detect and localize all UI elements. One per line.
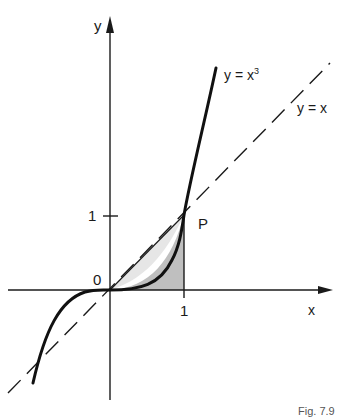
cubic-curve-label: y = x3 bbox=[224, 67, 259, 82]
x-axis-arrow-icon bbox=[318, 286, 333, 294]
figure-caption: Fig. 7.9 bbox=[298, 405, 335, 417]
cubic-exponent: 3 bbox=[254, 66, 259, 76]
origin-label: 0 bbox=[93, 272, 101, 287]
cubic-curve-label-text: y = x bbox=[224, 67, 254, 83]
x-axis-label: x bbox=[308, 303, 315, 317]
x-tick-label: 1 bbox=[180, 303, 188, 318]
line-y-equals-x bbox=[8, 63, 330, 393]
y-axis-arrow-icon bbox=[106, 16, 114, 33]
line-curve-label: y = x bbox=[297, 101, 327, 115]
y-axis-label: y bbox=[94, 18, 102, 33]
y-tick-label: 1 bbox=[88, 208, 96, 223]
curve-y-equals-x-cubed bbox=[33, 68, 216, 383]
point-p-label: P bbox=[198, 216, 208, 231]
